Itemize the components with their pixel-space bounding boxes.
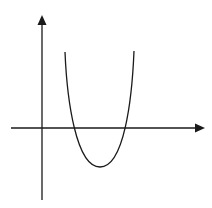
x-axis — [11, 124, 205, 133]
parabola-curve — [65, 51, 134, 167]
x-axis-arrow-icon — [195, 124, 205, 133]
y-axis-arrow-icon — [38, 15, 47, 25]
function-graph-diagram — [0, 0, 212, 208]
y-axis — [38, 15, 47, 200]
